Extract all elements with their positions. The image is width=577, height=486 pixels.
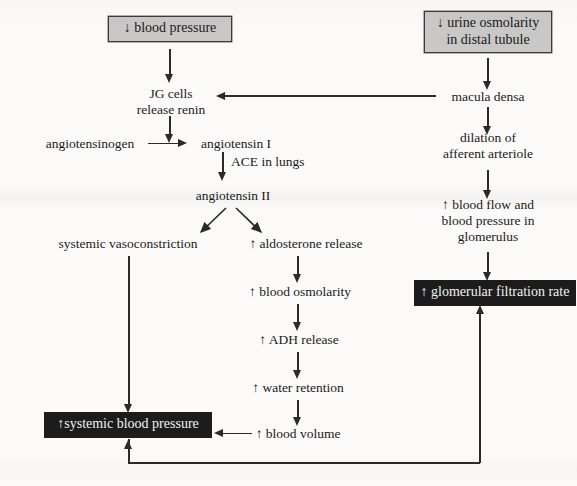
edge-angiotensinogen-to-ang1-line	[148, 143, 180, 145]
edge-volume-to-sbp-line	[222, 433, 252, 435]
edge-feedback-right-riser	[479, 312, 481, 463]
node-jg-cells: JG cells release renin	[125, 86, 217, 118]
edge-ang1-to-ang2-arrowhead	[218, 172, 226, 181]
edge-osmolarity-to-adh-arrowhead	[293, 322, 301, 331]
edge-bp-to-jg-line	[169, 49, 171, 77]
edge-vasoconstriction-to-sbp-line	[128, 256, 130, 408]
edge-volume-to-sbp-arrowhead	[214, 429, 223, 437]
edge-bp-to-jg-arrowhead	[165, 74, 173, 83]
edge-label-ace-in-lungs: ACE in lungs	[231, 154, 305, 170]
node-macula-densa: macula densa	[443, 89, 533, 105]
node-blood-pressure-down: ↓ blood pressure	[108, 16, 232, 42]
node-water-retention: ↑ water retention	[234, 380, 362, 396]
edge-macula-to-jg-arrowhead	[216, 92, 225, 100]
node-blood-flow-glomerulus: ↑ blood flow and blood pressure in glome…	[420, 197, 556, 245]
node-blood-volume: ↑ blood volume	[239, 426, 357, 442]
node-urine-osmolarity-down: ↓ urine osmolarity in distal tubule	[424, 11, 552, 53]
node-adh-release: ↑ ADH release	[242, 332, 356, 348]
node-aldosterone-release: ↑ aldosterone release	[232, 236, 380, 252]
edge-adh-to-water-arrowhead	[293, 370, 301, 379]
flowchart-canvas: ↓ blood pressure ↓ urine osmolarity in d…	[0, 0, 577, 486]
edge-water-to-volume-arrowhead	[293, 417, 301, 426]
node-dilation-afferent-arteriole: dilation of afferent arteriole	[424, 130, 552, 162]
node-blood-osmolarity: ↑ blood osmolarity	[235, 284, 365, 300]
edge-feedback-to-gfr-arrowhead	[476, 305, 484, 314]
node-systemic-vasoconstriction: systemic vasoconstriction	[30, 236, 226, 252]
edge-feedback-bottom-run	[128, 462, 480, 464]
node-angiotensin-i: angiotensin I	[186, 136, 286, 152]
node-systemic-blood-pressure: ↑systemic blood pressure	[44, 412, 212, 438]
node-glomerular-filtration-rate: ↑ glomerular filtration rate	[414, 280, 576, 306]
node-angiotensinogen: angiotensinogen	[30, 136, 150, 152]
edge-angiotensinogen-to-ang1-arrowhead	[178, 139, 187, 147]
edge-macula-to-jg-line	[224, 95, 436, 97]
edge-feedback-left-arrowhead	[124, 440, 132, 449]
edge-aldosterone-to-osmolarity-arrowhead	[293, 274, 301, 283]
